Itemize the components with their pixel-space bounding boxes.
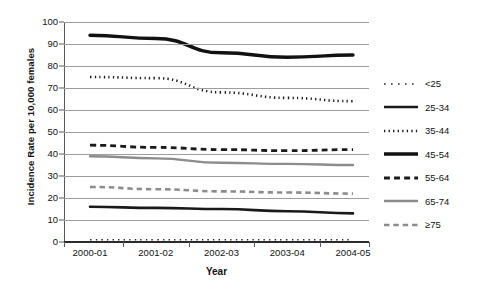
y-tick-mark: [59, 88, 64, 89]
y-tick-mark: [59, 220, 64, 221]
legend-line-swatch-icon: [383, 78, 419, 90]
gridline: [64, 198, 369, 199]
series-line-65-74: [90, 156, 353, 165]
series-line-35-44: [90, 77, 353, 101]
legend-item[interactable]: 55-64: [383, 166, 489, 190]
y-tick-label: 90: [47, 39, 58, 49]
x-tick-label: 2002-03: [204, 247, 239, 258]
y-tick-mark: [59, 110, 64, 111]
y-axis-tick-labels: 1009080706050403020100: [24, 0, 58, 290]
y-tick-label: 40: [47, 149, 58, 159]
y-tick-mark: [59, 132, 64, 133]
series-line-55-64: [90, 145, 353, 151]
x-tick-label: 2001-02: [138, 247, 173, 258]
series-line-25-34: [90, 207, 353, 214]
legend-item[interactable]: <25: [383, 72, 489, 96]
y-tick-mark: [59, 44, 64, 45]
y-tick-mark: [59, 66, 64, 67]
plot-area: [64, 22, 369, 242]
legend-item-label: 35-44: [425, 125, 449, 136]
incidence-rate-line-chart: Incidence Rate per 10,000 females 100908…: [0, 0, 489, 290]
gridline: [64, 176, 369, 177]
legend-item[interactable]: 25-34: [383, 96, 489, 120]
legend-line-swatch-icon: [383, 195, 419, 207]
x-axis-title: Year: [64, 266, 369, 277]
legend-line-swatch-icon: [383, 219, 419, 231]
y-tick-label: 0: [53, 237, 58, 247]
series-line-45-54: [90, 35, 353, 57]
legend-item-label: 25-34: [425, 102, 449, 113]
gridline: [64, 22, 369, 23]
y-tick-label: 100: [42, 17, 58, 27]
y-tick-label: 30: [47, 171, 58, 181]
y-tick-label: 80: [47, 61, 58, 71]
x-tick-label: 2004-05: [336, 247, 371, 258]
y-tick-label: 10: [47, 215, 58, 225]
legend-item-label: 55-64: [425, 172, 449, 183]
legend-item[interactable]: 45-54: [383, 143, 489, 167]
gridline: [64, 88, 369, 89]
y-tick-mark: [59, 198, 64, 199]
legend-item[interactable]: 65-74: [383, 190, 489, 214]
legend-item-label: 45-54: [425, 149, 449, 160]
gridline: [64, 110, 369, 111]
chart-legend: <2525-3435-4445-5455-6465-74≥75: [383, 72, 489, 237]
legend-item[interactable]: ≥75: [383, 213, 489, 237]
legend-item-label: <25: [425, 78, 441, 89]
y-tick-label: 50: [47, 127, 58, 137]
y-tick-mark: [59, 154, 64, 155]
gridline: [64, 220, 369, 221]
x-axis-tick-labels: 2000-012001-022002-032003-042004-05: [64, 247, 369, 263]
legend-item-label: ≥75: [425, 219, 441, 230]
x-tick-label: 2000-01: [73, 247, 108, 258]
legend-line-swatch-icon: [383, 101, 419, 113]
legend-line-swatch-icon: [383, 172, 419, 184]
y-tick-mark: [59, 176, 64, 177]
series-line--75: [90, 187, 353, 194]
y-tick-label: 70: [47, 83, 58, 93]
gridline: [64, 44, 369, 45]
x-tick-label: 2003-04: [270, 247, 305, 258]
legend-line-swatch-icon: [383, 125, 419, 137]
gridline: [64, 154, 369, 155]
y-tick-label: 60: [47, 105, 58, 115]
legend-item-label: 65-74: [425, 196, 449, 207]
gridline: [64, 132, 369, 133]
y-tick-label: 20: [47, 193, 58, 203]
legend-item[interactable]: 35-44: [383, 119, 489, 143]
legend-line-swatch-icon: [383, 148, 419, 160]
y-tick-mark: [59, 22, 64, 23]
gridline: [64, 66, 369, 67]
